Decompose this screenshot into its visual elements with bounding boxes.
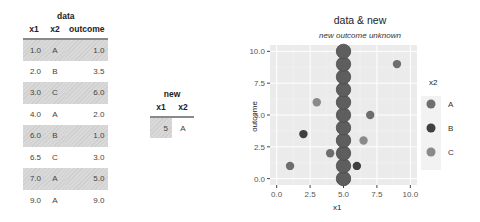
data-point: [326, 149, 334, 157]
header-x2: x2: [45, 21, 65, 39]
legend-label: A: [448, 100, 454, 109]
table-row: 1.0A1.0: [23, 39, 108, 61]
cell-x1: 5: [150, 117, 172, 138]
data-table-header-row: x1 x2 outcome: [23, 21, 108, 39]
data-point: [313, 98, 321, 106]
new-table-header-row: x1 x2: [150, 99, 194, 117]
table-row: 4.0A2.0: [23, 104, 108, 126]
y-tick-label: 10.0: [249, 47, 265, 56]
new-point: [336, 95, 350, 109]
legend-label: B: [448, 124, 453, 133]
header-outcome: outcome: [65, 21, 108, 39]
cell-x1: 9.0: [23, 190, 45, 212]
y-tick-label: 7.5: [254, 79, 266, 88]
new-point: [336, 57, 350, 71]
legend-title: x2: [429, 78, 437, 87]
cell-x1: 6.5: [23, 147, 45, 169]
cell-outcome: 6.0: [65, 82, 108, 104]
y-tick-label: 2.5: [254, 143, 266, 152]
legend-swatch: [427, 124, 436, 133]
new-point: [336, 121, 350, 135]
new-point: [336, 133, 350, 147]
cell-x1: 3.0: [23, 82, 45, 104]
new-point: [336, 82, 350, 96]
y-tick-label: 0.0: [254, 175, 266, 184]
header-x2: x2: [172, 99, 194, 117]
x-tick-label: 7.5: [371, 190, 383, 199]
new-point: [336, 70, 350, 84]
cell-x2: A: [45, 39, 65, 61]
table-row: 7.0A5.0: [23, 168, 108, 190]
cell-x2: C: [45, 147, 65, 169]
table-row: 2.0B3.5: [23, 61, 108, 83]
table-row: 9.0A9.0: [23, 190, 108, 212]
header-x1: x1: [150, 99, 172, 117]
cell-x1: 6.0: [23, 125, 45, 147]
cell-x2: A: [172, 117, 194, 138]
table-row: 6.0B1.0: [23, 125, 108, 147]
cell-x1: 1.0: [23, 39, 45, 61]
new-point: [336, 44, 350, 58]
legend-swatch: [427, 148, 436, 157]
table-row: 3.0C6.0: [23, 82, 108, 104]
cell-x2: C: [45, 82, 65, 104]
cell-outcome: 3.0: [65, 147, 108, 169]
data-point: [359, 136, 367, 144]
data-point: [366, 111, 374, 119]
x-tick-label: 2.5: [305, 190, 317, 199]
x-tick-label: 0.0: [271, 190, 283, 199]
cell-outcome: 3.5: [65, 61, 108, 83]
new-point: [336, 159, 350, 173]
legend-swatch: [427, 100, 436, 109]
y-tick-label: 5.0: [254, 111, 266, 120]
data-table-grid: x1 x2 outcome 1.0A1.02.0B3.53.0C6.04.0A2…: [23, 21, 108, 211]
table-row: 5 A: [150, 117, 194, 138]
new-table-caption: new: [150, 89, 194, 99]
data-table-body: 1.0A1.02.0B3.53.0C6.04.0A2.06.0B1.06.5C3…: [23, 39, 108, 211]
data-table: data x1 x2 outcome 1.0A1.02.0B3.53.0C6.0…: [23, 11, 108, 211]
table-row: 6.5C3.0: [23, 147, 108, 169]
cell-x2: B: [45, 61, 65, 83]
data-table-caption: data: [23, 11, 108, 21]
cell-x2: A: [45, 104, 65, 126]
legend-label: C: [448, 148, 454, 157]
data-point: [353, 162, 361, 170]
new-table-grid: x1 x2 5 A: [150, 99, 194, 138]
new-point: [336, 108, 350, 122]
header-x1: x1: [23, 21, 45, 39]
new-point: [336, 146, 350, 160]
data-point: [393, 60, 401, 68]
cell-x1: 7.0: [23, 168, 45, 190]
cell-x2: B: [45, 125, 65, 147]
plot-area: 0.02.55.07.510.00.02.55.07.510.0ABC: [230, 0, 480, 222]
x-tick-label: 10.0: [403, 190, 419, 199]
cell-outcome: 2.0: [65, 104, 108, 126]
cell-outcome: 1.0: [65, 125, 108, 147]
scatter-chart: data & new new outcome unknown outcome x…: [230, 0, 480, 222]
new-point: [336, 171, 350, 185]
cell-x2: A: [45, 190, 65, 212]
cell-outcome: 9.0: [65, 190, 108, 212]
cell-x2: A: [45, 168, 65, 190]
cell-x1: 2.0: [23, 61, 45, 83]
x-tick-label: 5.0: [338, 190, 350, 199]
data-point: [286, 162, 294, 170]
cell-x1: 4.0: [23, 104, 45, 126]
cell-outcome: 1.0: [65, 39, 108, 61]
new-table: new x1 x2 5 A: [150, 89, 194, 138]
cell-outcome: 5.0: [65, 168, 108, 190]
data-point: [299, 130, 307, 138]
